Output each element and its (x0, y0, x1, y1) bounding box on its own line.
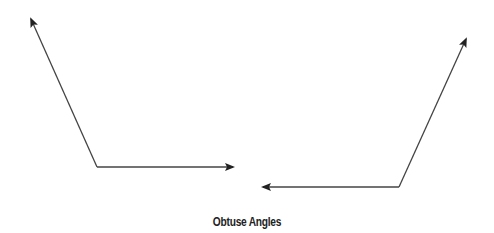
ray-arrow-up-left (31, 19, 97, 167)
obtuse-angle-right (263, 39, 466, 187)
obtuse-angle-left (31, 19, 233, 167)
diagram-canvas: Obtuse Angles (0, 0, 494, 233)
angles-figure (0, 0, 494, 233)
ray-arrow-up-right (399, 39, 466, 187)
figure-caption: Obtuse Angles (37, 215, 457, 229)
